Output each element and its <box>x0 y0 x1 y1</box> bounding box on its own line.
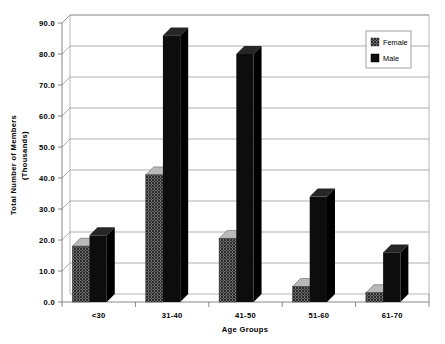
x-tick-label: 51-60 <box>308 311 329 320</box>
bar-male-41-50 <box>236 46 261 302</box>
bar-front-face <box>383 252 400 302</box>
bar-chart: 0.010.020.030.040.050.060.070.080.090.0 … <box>0 0 445 344</box>
bar-side-face <box>254 46 262 302</box>
legend-label-female: Female <box>383 38 408 47</box>
bar-male-51-60 <box>310 189 335 302</box>
bar-side-face <box>180 27 188 302</box>
bar-side-face <box>400 244 408 302</box>
bar-front-face <box>90 235 107 302</box>
y-axis-title-line1: Total Number of Members <box>9 115 18 215</box>
chart-container: 0.010.020.030.040.050.060.070.080.090.0 … <box>0 0 445 344</box>
bar-male-31-40 <box>163 27 188 302</box>
y-tick-label: 50.0 <box>39 143 55 152</box>
y-tick-label: 20.0 <box>39 236 55 245</box>
y-axis-title: Total Number of Members (Thousands) <box>9 115 29 215</box>
y-axis-title-line2: (Thousands) <box>20 131 29 180</box>
bar-side-face <box>107 227 115 302</box>
y-tick-label: 90.0 <box>39 19 55 28</box>
bar-front-face <box>310 197 327 302</box>
bar-front-face <box>72 246 89 302</box>
bar-male-<30 <box>90 227 115 302</box>
y-tick-label: 80.0 <box>39 50 55 59</box>
bar-front-face <box>146 175 163 302</box>
x-tick-label: 61-70 <box>382 311 403 320</box>
bar-front-face <box>366 293 383 302</box>
y-axis-ticks: 0.010.020.030.040.050.060.070.080.090.0 <box>39 19 62 307</box>
legend-item-male[interactable]: Male <box>371 54 399 63</box>
legend-item-female[interactable]: Female <box>371 38 408 47</box>
y-tick-label: 30.0 <box>39 205 55 214</box>
x-axis-title: Age Groups <box>222 325 268 334</box>
bar-front-face <box>292 287 309 303</box>
x-axis-ticks: <3031-4041-5051-6061-70 <box>62 302 429 320</box>
y-tick-label: 60.0 <box>39 112 55 121</box>
y-tick-label: 10.0 <box>39 267 55 276</box>
x-axis-title-label: Age Groups <box>222 325 268 334</box>
y-tick-label: 0.0 <box>44 298 55 307</box>
bar-front-face <box>219 238 236 302</box>
bar-side-face <box>327 189 335 302</box>
bar-front-face <box>163 35 180 302</box>
chart-legend[interactable]: Female Male <box>366 31 411 68</box>
x-tick-label: <30 <box>92 311 106 320</box>
y-tick-label: 40.0 <box>39 174 55 183</box>
legend-swatch-female-icon <box>371 38 379 46</box>
legend-label-male: Male <box>383 54 399 63</box>
legend-swatch-male-icon <box>371 54 379 62</box>
x-tick-label: 41-50 <box>235 311 256 320</box>
x-tick-label: 31-40 <box>162 311 183 320</box>
bar-male-61-70 <box>383 244 408 302</box>
y-tick-label: 70.0 <box>39 81 55 90</box>
bar-front-face <box>236 54 253 302</box>
